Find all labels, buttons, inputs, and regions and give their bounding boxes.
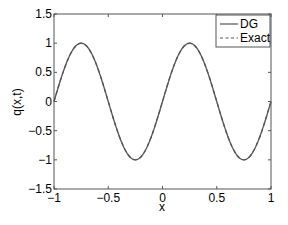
x-tick-label: 1 bbox=[268, 191, 275, 205]
series-dg-line bbox=[54, 43, 271, 160]
y-tick-label: −1 bbox=[38, 153, 52, 167]
y-tick-label: 0.5 bbox=[35, 65, 52, 79]
legend-label-dg: DG bbox=[240, 17, 258, 31]
x-axis-label: x bbox=[159, 200, 165, 214]
y-tick-label: −1.5 bbox=[28, 182, 52, 196]
legend-label-exact: Exact bbox=[240, 31, 271, 45]
legend: DGExact bbox=[216, 15, 271, 47]
x-tick-label: −0.5 bbox=[96, 191, 120, 205]
chart: −1−0.500.51 1.510.50−0.5−1−1.5 x q(x,t) … bbox=[0, 0, 288, 225]
y-axis-label: q(x,t) bbox=[10, 88, 24, 115]
y-tick-label: 1 bbox=[45, 36, 52, 50]
y-tick-label: −0.5 bbox=[28, 124, 52, 138]
y-tick-label: 0 bbox=[45, 95, 52, 109]
y-tick-label: 1.5 bbox=[35, 7, 52, 21]
x-tick-label: 0.5 bbox=[208, 191, 225, 205]
